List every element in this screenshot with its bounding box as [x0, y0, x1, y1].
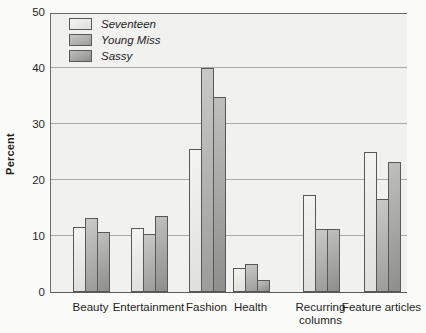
legend-item-seventeen: Seventeen — [69, 18, 160, 30]
y-tick-label-10: 10 — [0, 230, 45, 242]
legend-swatch-icon — [69, 18, 92, 30]
legend-label: Young Miss — [101, 34, 160, 46]
bar-group-fashion — [189, 68, 226, 292]
y-tick-label-0: 0 — [0, 286, 45, 298]
legend-label: Seventeen — [101, 18, 156, 30]
legend-swatch-icon — [69, 34, 92, 46]
bar-sassy — [155, 216, 168, 292]
y-tick-label-50: 50 — [0, 6, 45, 18]
legend-swatch-icon — [69, 50, 92, 62]
plot-area: SeventeenYoung MissSassy — [50, 13, 407, 293]
legend-label: Sassy — [101, 50, 132, 62]
bar-group-entertainment — [131, 216, 168, 292]
gridline-40 — [51, 67, 407, 68]
y-tick-label-20: 20 — [0, 174, 45, 186]
gridline-30 — [51, 123, 407, 124]
legend-item-sassy: Sassy — [69, 50, 160, 62]
bar-sassy — [97, 232, 110, 292]
bar-sassy — [327, 229, 340, 292]
bar-group-feature-articles — [364, 152, 401, 292]
bar-group-recurring-columns — [303, 195, 340, 292]
legend-item-young-miss: Young Miss — [69, 34, 160, 46]
y-tick-label-30: 30 — [0, 118, 45, 130]
bar-group-health — [233, 264, 270, 292]
y-axis-title: Percent — [4, 84, 16, 224]
bar-sassy — [213, 97, 226, 292]
bar-group-beauty — [73, 218, 110, 292]
legend: SeventeenYoung MissSassy — [69, 18, 160, 66]
bar-sassy — [257, 280, 270, 292]
y-tick-label-40: 40 — [0, 62, 45, 74]
x-label-feature-articles: Feature articles — [336, 301, 426, 314]
bar-sassy — [388, 162, 401, 292]
gridline-20 — [51, 179, 407, 180]
